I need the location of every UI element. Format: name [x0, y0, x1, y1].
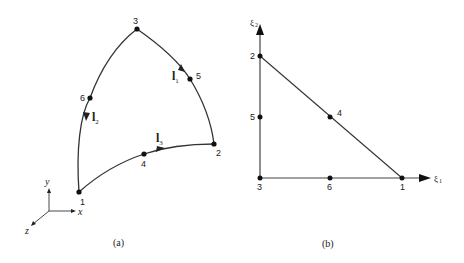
node-b-2-label: 2 [250, 51, 255, 61]
node-a-3 [134, 26, 139, 31]
tangent-arrow-l2-icon [83, 112, 90, 121]
xi1-axis-label: ξ1 [434, 174, 442, 184]
node-b-2 [258, 54, 263, 59]
node-b-1-label: 1 [400, 182, 405, 192]
x-axis-arrow-icon [71, 209, 76, 213]
node-a-5-label: 5 [196, 71, 201, 81]
node-a-4 [141, 151, 146, 156]
node-a-5 [187, 76, 192, 81]
figure-canvas: 1 2 3 4 5 6 l1 l2 l3 y x z (a) [0, 0, 464, 263]
edge-3-5-2 [137, 29, 214, 144]
z-axis-label: z [24, 225, 29, 236]
node-a-6 [87, 95, 92, 100]
node-a-2-label: 2 [216, 148, 221, 158]
node-b-6-label: 6 [327, 182, 332, 192]
node-b-6 [328, 176, 333, 181]
panel-a: 1 2 3 4 5 6 l1 l2 l3 y x z (a) [24, 16, 221, 249]
node-a-3-label: 3 [133, 16, 138, 26]
node-a-6-label: 6 [80, 93, 85, 103]
node-b-3-label: 3 [257, 182, 262, 192]
xyz-axes-triad: y x z [24, 176, 83, 236]
tangent-label-l2: l2 [92, 110, 99, 126]
xi1-axis-arrow-icon [419, 174, 431, 182]
edge-1-4-2 [79, 144, 214, 192]
node-b-5 [258, 115, 263, 120]
node-a-2 [211, 141, 216, 146]
xi2-axis-label: ξ2 [250, 18, 258, 28]
y-axis-arrow-icon [47, 188, 51, 193]
edge-1-6-3 [78, 29, 137, 192]
tangent-label-l3: l3 [156, 131, 163, 147]
panel-a-caption: (a) [113, 237, 124, 249]
node-b-4-label: 4 [337, 108, 342, 118]
panel-b-caption: (b) [322, 238, 334, 250]
node-b-5-label: 5 [250, 112, 255, 122]
node-b-4 [328, 115, 333, 120]
node-a-1 [76, 189, 81, 194]
panel-b: 1 2 3 4 5 6 ξ2 ξ1 (b) [250, 18, 442, 250]
x-axis-label: x [77, 206, 83, 217]
y-axis-label: y [44, 176, 50, 187]
node-b-3 [258, 176, 263, 181]
node-a-4-label: 4 [141, 159, 146, 169]
tangent-label-l1: l1 [172, 69, 179, 85]
node-b-1 [400, 176, 405, 181]
